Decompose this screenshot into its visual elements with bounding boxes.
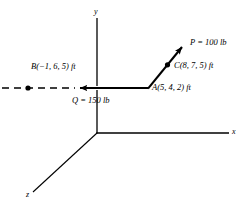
label-axis-y: y <box>94 8 98 16</box>
z-axis <box>33 133 97 192</box>
point-marker-b <box>25 85 30 90</box>
point-marker-c <box>165 62 170 67</box>
label-point-b: B(−1, 6, 5) ft <box>31 62 76 71</box>
force-vector-figure: P = 100 lb C(8, 7, 5) ft A(5, 4, 2) ft B… <box>0 0 246 209</box>
label-force-q: Q = 150 lb <box>72 96 110 105</box>
diagram-canvas <box>0 0 246 209</box>
label-force-p: P = 100 lb <box>190 38 227 47</box>
label-point-c: C(8, 7, 5) ft <box>174 61 213 70</box>
label-point-a: A(5, 4, 2) ft <box>152 83 191 92</box>
label-axis-z: z <box>26 191 29 199</box>
label-axis-x: x <box>232 128 236 136</box>
